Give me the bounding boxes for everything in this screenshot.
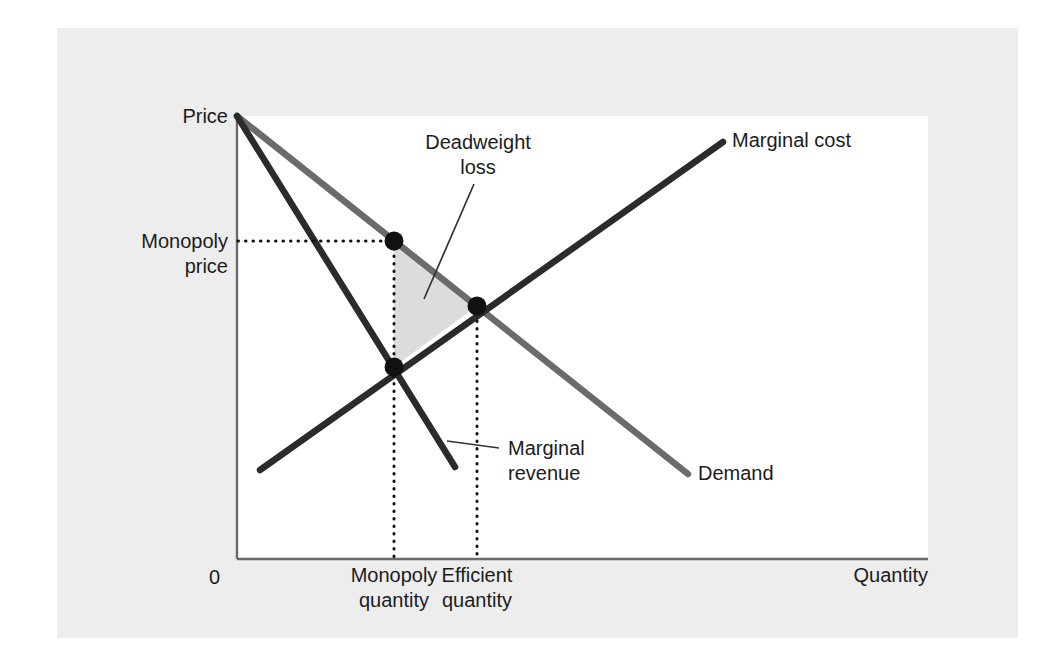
- marginal-cost-label: Marginal cost: [732, 128, 851, 153]
- efficient-quantity-label: Efficient quantity: [399, 563, 555, 613]
- origin-label: 0: [209, 565, 220, 590]
- marginal-revenue-equals-marginal-cost-point: [385, 358, 404, 377]
- x-axis-label: Quantity: [768, 563, 928, 588]
- marginal-revenue-label: Marginal revenue: [508, 436, 585, 486]
- monopoly-price-point: [385, 232, 404, 251]
- efficient-quantity-point: [468, 297, 487, 316]
- y-axis-label: Price: [78, 104, 228, 129]
- deadweight-loss-label: Deadweight loss: [392, 130, 564, 180]
- marginal-revenue-leader-line: [447, 441, 499, 448]
- demand-label: Demand: [698, 461, 774, 486]
- monopoly-price-label: Monopoly price: [58, 229, 228, 279]
- figure-root: Price Monopoly price Monopoly quantity E…: [0, 0, 1038, 666]
